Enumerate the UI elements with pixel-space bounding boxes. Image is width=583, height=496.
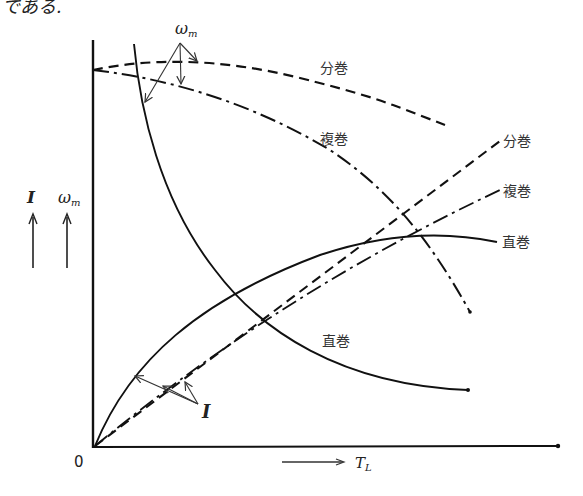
svg-text:TL: TL [355,454,372,473]
curve-compound-speed [93,70,470,312]
label-series-current: 直巻 [502,234,530,250]
x-axis [93,446,560,447]
svg-text:I: I [201,401,211,422]
label-series-speed: 直巻 [322,333,350,349]
svg-text:ωm: ωm [175,19,198,39]
curve-series-speed [134,44,468,390]
curve-series-current [95,236,497,446]
label-compound-speed: 複巻 [320,131,348,147]
y-label-current: I [26,187,36,207]
y-axis-labels: I ωm [26,187,81,268]
curve-shunt-current [95,141,500,446]
x-axis-label: TL [282,454,372,473]
curve-compound-current [95,190,500,446]
current-annotation: I [135,376,211,422]
motor-characteristics-chart: 0 I ωm TL 分巻 複巻 直巻 分巻 複巻 直巻 ωm [0,0,583,496]
label-compound-current: 複巻 [503,183,531,199]
label-shunt-speed: 分巻 [320,60,348,76]
label-shunt-current: 分巻 [503,133,531,149]
origin-label: 0 [74,453,84,471]
y-label-speed: ωm [58,188,81,208]
